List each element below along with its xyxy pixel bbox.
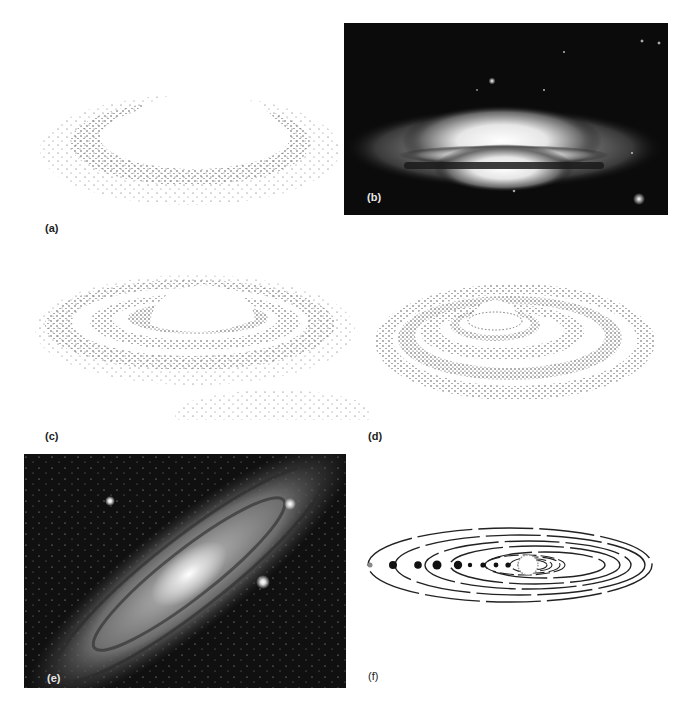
panel-e: (e) xyxy=(24,454,346,688)
panel-d xyxy=(370,280,670,410)
planet-pluto xyxy=(368,563,373,568)
edge-on-galaxy-photo xyxy=(344,23,668,215)
planet-mercury xyxy=(505,562,510,567)
planet-venus xyxy=(494,563,499,568)
planet-jupiter xyxy=(454,561,462,569)
label-d: (d) xyxy=(368,430,382,442)
label-f: (f) xyxy=(368,670,378,682)
planet-neptune xyxy=(389,561,397,569)
concentric-rings-drawing xyxy=(370,280,670,410)
label-c: (c) xyxy=(45,430,58,442)
sun-icon xyxy=(518,555,538,575)
collapsing-cloud-drawing xyxy=(20,55,340,225)
planet-earth xyxy=(480,562,485,567)
panel-b: (b) xyxy=(344,23,668,215)
label-a: (a) xyxy=(45,222,58,234)
label-b: (b) xyxy=(367,191,381,203)
planet-saturn xyxy=(433,561,442,570)
label-e: (e) xyxy=(47,672,60,684)
planet-uranus xyxy=(414,561,422,569)
solar-system-orbits-drawing xyxy=(360,525,660,610)
forming-rings-drawing xyxy=(20,270,370,420)
spiral-galaxy-photo xyxy=(24,454,346,688)
planet-mars xyxy=(468,563,472,567)
panel-c xyxy=(20,270,370,420)
panel-f xyxy=(360,525,660,610)
panel-a xyxy=(20,55,340,225)
